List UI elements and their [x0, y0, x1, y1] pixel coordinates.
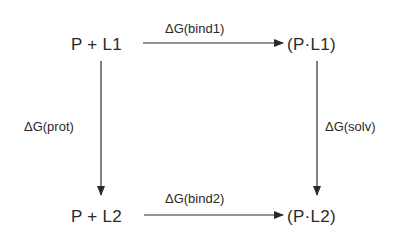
label-prot: ΔG(prot)	[24, 119, 74, 135]
label-solv: ΔG(solv)	[325, 119, 376, 135]
label-bind2: ΔG(bind2)	[165, 191, 224, 207]
node-p-plus-l1: P + L1	[71, 35, 122, 55]
node-p-l1-complex: (P·L1)	[287, 35, 336, 55]
label-bind1: ΔG(bind1)	[165, 21, 224, 37]
node-p-l2-complex: (P·L2)	[287, 207, 336, 227]
node-p-plus-l2: P + L2	[71, 207, 122, 227]
